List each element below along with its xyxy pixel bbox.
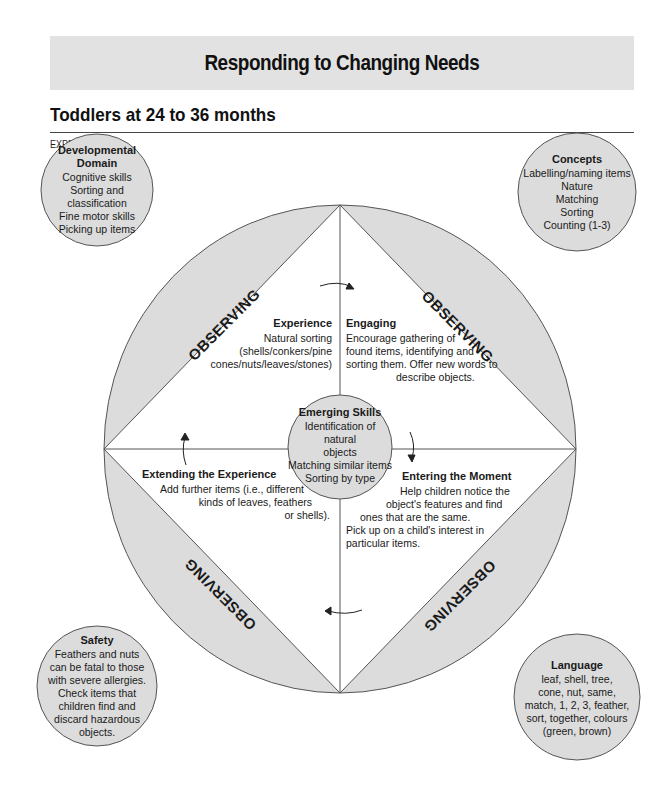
language-bubble: Language leaf, shell, tree, cone, nut, s…: [516, 650, 638, 746]
engaging-line: Encourage gathering of: [346, 332, 516, 345]
engaging-block: Engaging Encourage gathering of found it…: [346, 317, 516, 384]
developmental-domain-line: Cognitive skills: [62, 171, 131, 184]
language-line: leaf, shell, tree,: [541, 673, 612, 686]
extending-title: Extending the Experience: [142, 468, 330, 481]
language-line: match, 1, 2, 3, feather,: [525, 699, 629, 712]
safety-line: objects.: [79, 726, 115, 739]
safety-line: Feathers and nuts: [55, 648, 140, 661]
extending-line: Add further items (i.e., different: [142, 483, 330, 496]
entering-block: Entering the Moment Help children notice…: [346, 470, 526, 550]
developmental-domain-bubble: Developmental Domain Cognitive skills So…: [45, 140, 149, 240]
concepts-line: Labelling/naming items: [523, 167, 630, 180]
engaging-line: sorting them. Offer new words to: [346, 358, 516, 371]
entering-line: Help children notice the: [346, 485, 526, 498]
experience-title: Experience: [200, 317, 332, 330]
entering-line: object's features and find: [346, 498, 526, 511]
developmental-domain-line: Sorting and: [70, 184, 124, 197]
entering-line: Pick up on a child's interest in: [346, 524, 526, 537]
concepts-line: Nature: [561, 180, 593, 193]
safety-line: Check items that: [58, 687, 136, 700]
experience-block: Experience Natural sorting (shells/conke…: [200, 317, 332, 371]
extending-line: or shells).: [142, 509, 330, 522]
concepts-line: Sorting: [560, 206, 593, 219]
engaging-line: found items, identifying and: [346, 345, 516, 358]
concepts-title: Concepts: [552, 153, 602, 166]
developmental-domain-line: Picking up items: [59, 223, 135, 236]
developmental-domain-title: Developmental Domain: [45, 144, 149, 170]
safety-line: discard hazardous: [54, 713, 140, 726]
safety-title: Safety: [80, 634, 113, 647]
experience-line: cones/nuts/leaves/stones): [200, 358, 332, 371]
safety-bubble: Safety Feathers and nuts can be fatal to…: [40, 632, 154, 740]
language-line: (green, brown): [543, 725, 611, 738]
emerging-skills-title: Emerging Skills: [299, 406, 382, 419]
engaging-title: Engaging: [346, 317, 516, 330]
language-line: cone, nut, same,: [538, 686, 616, 699]
experience-line: (shells/conkers/pine: [200, 345, 332, 358]
engaging-line: describe objects.: [346, 371, 516, 384]
safety-line: with severe allergies.: [48, 674, 146, 687]
language-line: sort, together, colours: [527, 712, 628, 725]
safety-line: children find and: [58, 700, 135, 713]
extending-block: Extending the Experience Add further ite…: [142, 468, 330, 522]
entering-line: particular items.: [346, 537, 526, 550]
safety-line: can be fatal to those: [50, 661, 145, 674]
developmental-domain-line: Fine motor skills: [59, 210, 135, 223]
concepts-line: Matching: [556, 193, 599, 206]
entering-title: Entering the Moment: [346, 470, 526, 483]
emerging-skills-line: Identification of natural: [288, 420, 392, 446]
entering-line: ones that are the same.: [346, 511, 526, 524]
developmental-domain-line: classification: [67, 197, 127, 210]
experience-line: Natural sorting: [200, 332, 332, 345]
concepts-line: Counting (1-3): [543, 219, 610, 232]
extending-line: kinds of leaves, feathers: [142, 496, 330, 509]
concepts-bubble: Concepts Labelling/naming items Nature M…: [518, 142, 636, 242]
language-title: Language: [551, 659, 603, 672]
emerging-skills-line: objects: [323, 446, 356, 459]
